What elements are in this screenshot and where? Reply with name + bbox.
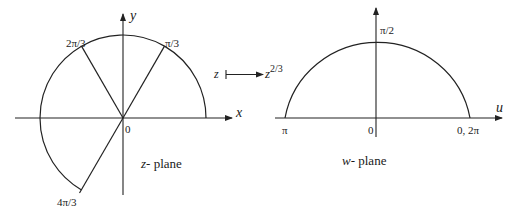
- mapping-from: z: [213, 67, 219, 81]
- w-top-label: π/2: [380, 24, 394, 36]
- w-origin-label: 0: [368, 124, 374, 136]
- z-label-4pi-over-3: 4π/3: [57, 196, 77, 208]
- z-ray-4pi-over-3: [80, 118, 124, 193]
- conformal-mapping-figure: y x 0 2π/3 π/3 4π/3 z- plane z z2/3 π/2 …: [0, 0, 510, 216]
- w-plane-caption: w- plane: [342, 153, 387, 168]
- w-semicircle-arc: [285, 42, 470, 118]
- z-origin-label: 0: [125, 123, 131, 135]
- z-plane: y x 0 2π/3 π/3 4π/3 z- plane: [15, 8, 243, 208]
- z-label-pi-over-3: π/3: [165, 37, 180, 49]
- z-plane-caption: z- plane: [140, 156, 182, 171]
- z-x-axis-label: x: [235, 105, 243, 120]
- w-plane: π/2 u π 0 0, 2π w- plane: [275, 8, 503, 168]
- z-ray-2pi-over-3: [82, 46, 124, 118]
- z-y-axis-label: y: [128, 8, 137, 23]
- w-u-axis-label: u: [496, 100, 503, 115]
- mapping-arrow: z z2/3: [213, 63, 283, 81]
- w-left-label: π: [282, 124, 288, 136]
- z-label-2pi-over-3: 2π/3: [66, 37, 86, 49]
- mapping-to: z2/3: [264, 63, 283, 81]
- z-ray-pi-over-3: [123, 46, 165, 118]
- w-right-label: 0, 2π: [457, 124, 480, 136]
